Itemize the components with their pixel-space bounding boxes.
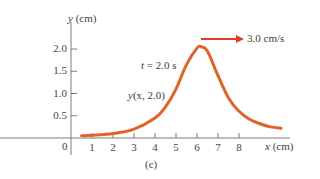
x-tick-label: 8 bbox=[236, 142, 242, 153]
y-ticks bbox=[71, 49, 77, 116]
curve-label: y(x, 2.0) bbox=[128, 90, 165, 101]
wave-pulse-curve bbox=[82, 46, 282, 136]
panel-label: (c) bbox=[145, 159, 157, 170]
y-axis-label: y (cm) bbox=[68, 13, 96, 24]
x-tick-label: 5 bbox=[173, 142, 179, 153]
origin-label: 0 bbox=[62, 141, 68, 152]
x-tick-label: 7 bbox=[215, 142, 221, 153]
y-tick-label: 1.0 bbox=[37, 88, 67, 99]
time-annotation: t = 2.0 s bbox=[141, 60, 177, 71]
y-tick-label: 0.5 bbox=[37, 110, 67, 121]
x-tick-label: 6 bbox=[194, 142, 200, 153]
y-tick-label: 2.0 bbox=[37, 43, 67, 54]
x-tick-label: 1 bbox=[89, 142, 95, 153]
velocity-arrow-head-icon bbox=[236, 35, 244, 43]
x-tick-label: 4 bbox=[152, 142, 158, 153]
x-tick-label: 3 bbox=[131, 142, 137, 153]
x-axis-label: x (cm) bbox=[265, 141, 293, 152]
velocity-label: 3.0 cm/s bbox=[247, 33, 284, 44]
y-tick-label: 1.5 bbox=[37, 65, 67, 76]
x-tick-label: 2 bbox=[110, 142, 116, 153]
